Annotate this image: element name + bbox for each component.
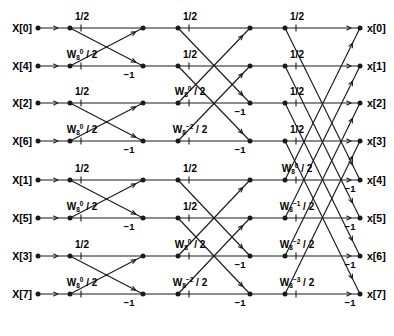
stage1-coefficient-row-5: W80 / 2 — [67, 201, 98, 213]
input-node-row-4 — [36, 178, 41, 183]
input-label-2: X[2] — [12, 98, 32, 109]
minus-one-label-s3-row-6: −1 — [345, 260, 356, 270]
input-label-6: X[3] — [12, 251, 32, 262]
stage3-coefficient-row-4: W80 / 2 — [282, 163, 313, 175]
input-label-7: X[7] — [12, 289, 32, 300]
stage1-coefficient-row-3: W80 / 2 — [67, 124, 98, 136]
minus-one-label-s1-row-5: −1 — [124, 222, 135, 232]
output-label-2: x[2] — [367, 98, 386, 109]
stage3-coefficient-row-3: 1/2 — [290, 125, 304, 135]
stage1-coefficient-row-2: 1/2 — [75, 87, 89, 97]
output-label-1: x[1] — [367, 61, 386, 72]
input-label-1: X[4] — [12, 61, 32, 72]
stage2-coefficient-row-3: W8−2 / 2 — [173, 124, 207, 136]
output-label-5: x[5] — [367, 213, 386, 224]
stage2-coefficient-row-4: 1/2 — [183, 164, 197, 174]
stage1-coefficient-row-7: W80 / 2 — [67, 277, 98, 289]
output-label-6: x[6] — [367, 251, 386, 262]
stage3-coefficient-row-7: W8−3 / 2 — [280, 277, 314, 289]
minus-one-label-s2-row-6: −1 — [235, 260, 246, 270]
stage1-coefficient-row-6: 1/2 — [75, 240, 89, 250]
minus-one-label-s2-row-7: −1 — [235, 298, 246, 308]
output-label-0: x[0] — [367, 23, 386, 34]
stage1-coefficient-row-4: 1/2 — [75, 164, 89, 174]
minus-one-label-s1-row-1: −1 — [124, 70, 135, 80]
minus-one-label-s3-row-4: −1 — [345, 184, 356, 194]
input-node-row-2 — [36, 101, 41, 106]
output-label-4: x[4] — [367, 175, 386, 186]
output-label-3: x[3] — [367, 136, 386, 147]
fft-butterfly-diagram: X[0]X[4]X[2]X[6]X[1]X[5]X[3]X[7]x[0]x[1]… — [0, 0, 394, 336]
stage1-coefficient-row-1: W80 / 2 — [67, 49, 98, 61]
minus-one-label-s3-row-5: −1 — [345, 222, 356, 232]
input-node-row-7 — [36, 292, 41, 297]
stage2-coefficient-row-2: W80 / 2 — [175, 86, 206, 98]
minus-one-label-s1-row-7: −1 — [124, 298, 135, 308]
input-label-0: X[0] — [12, 23, 32, 34]
input-node-row-5 — [36, 216, 41, 221]
stage2-coefficient-row-5: 1/2 — [183, 202, 197, 212]
input-node-row-6 — [36, 254, 41, 259]
stage1-coefficient-row-0: 1/2 — [75, 12, 89, 22]
stage3-coefficient-row-6: W8−2 / 2 — [280, 239, 314, 251]
input-node-row-0 — [36, 26, 41, 31]
input-label-5: X[5] — [12, 213, 32, 224]
minus-one-label-s1-row-3: −1 — [124, 145, 135, 155]
minus-one-label-s2-row-3: −1 — [235, 145, 246, 155]
stage3-coefficient-row-0: 1/2 — [290, 12, 304, 22]
minus-one-label-s3-row-7: −1 — [345, 298, 356, 308]
stage3-coefficient-row-2: 1/2 — [290, 87, 304, 97]
stage3-coefficient-row-5: W8−1 / 2 — [280, 201, 314, 213]
input-node-row-1 — [36, 64, 41, 69]
output-label-7: x[7] — [367, 289, 386, 300]
stage2-coefficient-row-0: 1/2 — [183, 12, 197, 22]
input-label-3: X[6] — [12, 136, 32, 147]
input-label-4: X[1] — [12, 175, 32, 186]
stage2-coefficient-row-7: W8−2 / 2 — [173, 277, 207, 289]
stage2-coefficient-row-6: W80 / 2 — [175, 239, 206, 251]
stage3-coefficient-row-1: 1/2 — [290, 50, 304, 60]
minus-one-label-s2-row-2: −1 — [235, 107, 246, 117]
stage2-coefficient-row-1: 1/2 — [183, 50, 197, 60]
input-node-row-3 — [36, 139, 41, 144]
